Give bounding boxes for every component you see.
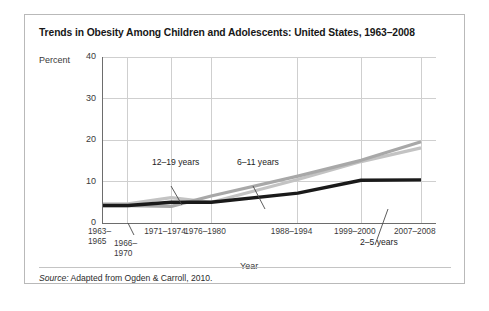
series-annotation-label: 2–5 years [360, 237, 398, 247]
x-tick-label: 1963– 1965 [88, 227, 111, 247]
chart-title: Trends in Obesity Among Children and Ado… [39, 27, 415, 38]
leader-line [253, 186, 265, 209]
x-tick-label: 1976–1980 [184, 227, 226, 237]
source-note: Source: Adapted from Ogden & Carroll, 20… [39, 273, 212, 283]
leader-line [171, 186, 182, 205]
x-tick-label: 1971–1974 [144, 227, 186, 237]
source-text: Adapted from Ogden & Carroll, 2010. [69, 273, 213, 283]
plot-wrapper: Percent 010203040 1963– 19651966– 197019… [39, 49, 451, 239]
y-axis-title: Percent [39, 55, 70, 65]
y-tick-label: 10 [70, 176, 96, 186]
figure-card: Trends in Obesity Among Children and Ado… [24, 14, 465, 284]
series-annotation-label: 12–19 years [152, 157, 199, 167]
x-tick-connector [128, 223, 134, 235]
y-tick-label: 40 [70, 51, 96, 61]
x-tick-label: 1966– 1970 [114, 239, 137, 259]
source-label: Source: [39, 273, 69, 283]
y-tick-label: 30 [70, 93, 96, 103]
annotation-leader-lines [103, 57, 436, 223]
x-axis-title: Year [240, 261, 258, 271]
plot-area [102, 57, 436, 224]
x-tick-label: 1988–1994 [271, 227, 313, 237]
series-annotation-label: 6–11 years [237, 157, 279, 167]
x-tick-label: 1999–2000 [334, 227, 376, 237]
x-tick-label: 2007–2008 [394, 227, 436, 237]
y-tick-label: 20 [70, 134, 96, 144]
footer-divider [39, 267, 451, 268]
